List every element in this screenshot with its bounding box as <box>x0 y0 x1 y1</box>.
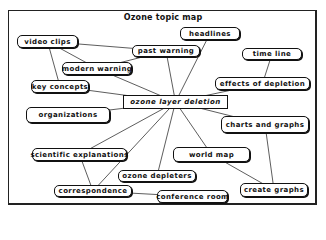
node-correspondence[interactable]: correspondence <box>54 185 132 197</box>
node-label: conference room <box>156 193 229 201</box>
node-label: effects of depletion <box>220 80 305 88</box>
node-label: key concepts <box>32 83 88 91</box>
connector-headlines-center <box>176 34 211 103</box>
node-video-clips[interactable]: video clips <box>17 35 78 48</box>
node-scientific-explanations[interactable]: scientific explanations <box>32 148 127 161</box>
node-organizations[interactable]: organizations <box>26 107 110 123</box>
node-time-line[interactable]: time line <box>242 48 302 60</box>
node-label: modern warning <box>62 65 132 73</box>
node-headlines[interactable]: headlines <box>180 27 240 40</box>
node-label: create graphs <box>244 186 304 194</box>
connector-charts_and_graphs-create_graphs <box>265 125 274 191</box>
node-label: past warning <box>138 47 195 55</box>
node-modern-warning[interactable]: modern warning <box>62 62 132 75</box>
node-create-graphs[interactable]: create graphs <box>240 183 308 197</box>
node-label: scientific explanations <box>30 151 128 159</box>
node-ozone-layer-deletion[interactable]: ozone layer deletion <box>123 95 228 109</box>
node-label: organizations <box>38 111 97 119</box>
node-label: ozone layer deletion <box>130 98 220 106</box>
connector-ozone_depleters-center <box>157 102 176 176</box>
node-label: world map <box>189 151 234 159</box>
node-world-map[interactable]: world map <box>173 147 250 162</box>
node-key-concepts[interactable]: key concepts <box>31 80 89 93</box>
node-effects-of-depletion[interactable]: effects of depletion <box>215 77 310 90</box>
node-label: charts and graphs <box>226 121 305 129</box>
node-label: video clips <box>24 38 71 46</box>
node-label: time line <box>253 50 291 58</box>
node-label: correspondence <box>59 187 128 195</box>
node-label: ozone depleters <box>122 172 192 180</box>
node-past-warning[interactable]: past warning <box>132 45 200 57</box>
node-ozone-depleters[interactable]: ozone depleters <box>118 170 196 182</box>
node-label: headlines <box>189 30 231 38</box>
node-conference-room[interactable]: conference room <box>157 190 228 203</box>
node-charts-and-graphs[interactable]: charts and graphs <box>221 116 309 133</box>
